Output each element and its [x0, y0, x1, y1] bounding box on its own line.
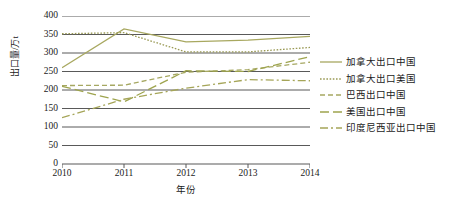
y-axis-tick-label: 400	[30, 11, 58, 21]
x-axis-tick-label: 2013	[225, 168, 271, 179]
y-axis-tick-label: 50	[30, 141, 58, 151]
legend-label: 印度尼西亚出口中国	[346, 123, 436, 133]
y-axis-tick-label: 250	[30, 67, 58, 77]
y-axis-title: 出口量/万t	[8, 17, 21, 97]
y-axis-tick-label: 350	[30, 30, 58, 40]
legend-line-swatch	[320, 57, 342, 67]
y-axis-tick-label: 100	[30, 122, 58, 132]
line-chart: 出口量/万t 050100150200250300350400 20102011…	[0, 0, 455, 219]
legend-label: 加拿大出口美国	[346, 74, 416, 84]
legend-item: 巴西出口中国	[320, 87, 455, 104]
chart-legend: 加拿大出口中国加拿大出口美国巴西出口中国美国出口中国印度尼西亚出口中国	[320, 54, 455, 137]
y-axis-tick-label: 200	[30, 85, 58, 95]
legend-label: 加拿大出口中国	[346, 57, 416, 67]
legend-item: 印度尼西亚出口中国	[320, 120, 455, 137]
legend-item: 加拿大出口中国	[320, 54, 455, 71]
y-axis-tick-labels: 050100150200250300350400	[26, 0, 58, 219]
y-axis-tick-label: 300	[30, 48, 58, 58]
plot-svg	[62, 16, 310, 170]
legend-line-swatch	[320, 74, 342, 84]
legend-line-swatch	[320, 107, 342, 117]
legend-label: 巴西出口中国	[346, 90, 406, 100]
x-axis-title: 年份	[62, 182, 310, 196]
legend-label: 美国出口中国	[346, 107, 406, 117]
x-axis-tick-label: 2011	[101, 168, 147, 179]
legend-item: 美国出口中国	[320, 104, 455, 121]
y-axis-tick-label: 150	[30, 104, 58, 114]
legend-line-swatch	[320, 90, 342, 100]
x-axis-tick-label: 2010	[39, 168, 85, 179]
x-axis-tick-label: 2014	[287, 168, 333, 179]
legend-line-swatch	[320, 123, 342, 133]
plot-area	[62, 16, 310, 164]
series-line	[62, 57, 310, 102]
legend-item: 加拿大出口美国	[320, 71, 455, 88]
x-axis-tick-labels: 20102011201220132014	[62, 168, 310, 182]
series-line	[62, 80, 310, 118]
series-line	[62, 62, 310, 85]
x-axis-tick-label: 2012	[163, 168, 209, 179]
